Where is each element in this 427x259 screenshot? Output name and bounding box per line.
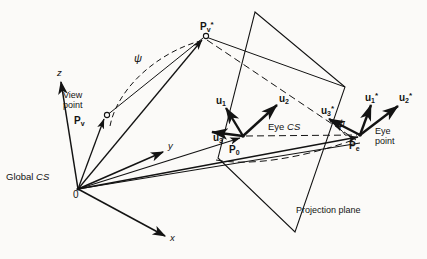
global-cs-label: Global CS xyxy=(6,172,49,182)
edge-view-point-to-pv-star xyxy=(106,38,203,116)
vector-u1 xyxy=(226,108,243,136)
edge-pv-star-to-plane-right xyxy=(206,37,345,87)
pv-subscript: v xyxy=(81,120,85,127)
vector-label-u3: u3 xyxy=(213,133,223,144)
vector-label-u1: u1 xyxy=(216,96,226,107)
eye-point-label-line2: point xyxy=(375,136,395,146)
u2-star-superscript: * xyxy=(409,91,412,100)
eye-cs-word: Eye xyxy=(268,121,287,132)
eye-cs-label: Eye CS xyxy=(268,122,300,132)
u2-subscript: 2 xyxy=(285,98,289,105)
vector-label-u2: u2 xyxy=(279,94,289,105)
x-axis-label: x xyxy=(170,233,175,243)
vector-label-u3-star: u3* xyxy=(321,105,334,117)
psi-angle-label-left: ψ xyxy=(134,53,142,65)
u3-subscript: 3 xyxy=(219,137,223,144)
u3-star-superscript: * xyxy=(331,104,334,113)
eye-point-label: Eye point xyxy=(375,126,395,146)
point-marker-p0 xyxy=(241,134,245,138)
eye-point-label-line1: Eye xyxy=(375,126,395,136)
diagram-vector-graphics xyxy=(0,0,427,259)
z-axis-label: z xyxy=(57,68,62,78)
ray-origin-to-view-point xyxy=(78,119,104,189)
point-marker-pe xyxy=(358,133,362,137)
y-axis-label: y xyxy=(168,141,173,151)
point-label-pv: Pv xyxy=(74,116,85,127)
view-point-label-line1: View xyxy=(63,90,83,100)
u1-star-superscript: * xyxy=(375,91,378,100)
global-cs-word: Global xyxy=(6,171,36,182)
view-point-label: View point xyxy=(63,90,83,110)
pv-letter: P xyxy=(74,115,81,126)
pe-subscript: e xyxy=(356,145,360,152)
point-marker-pv-star xyxy=(203,33,208,38)
figure-canvas: z y x 0 Global CS View point Pv Pv* ψ u1… xyxy=(0,0,427,259)
psi-angle-label-right: ψ xyxy=(337,118,345,130)
origin-label: 0 xyxy=(73,190,79,201)
point-label-pe: Pe xyxy=(349,141,360,152)
vector-label-u1-star: u1* xyxy=(365,92,378,104)
p0-letter: P xyxy=(229,144,236,155)
angle-arc-psi-left xyxy=(110,41,200,126)
point-label-p0: P0 xyxy=(229,145,240,156)
point-marker-view-point xyxy=(104,112,109,117)
view-point-label-line2: point xyxy=(63,100,83,110)
projection-plane-label: Projection plane xyxy=(296,206,361,215)
u1-subscript: 1 xyxy=(222,100,226,107)
pv-star-superscript: * xyxy=(211,20,214,29)
dashed-line-p0-to-pe xyxy=(246,135,357,136)
p0-subscript: 0 xyxy=(236,149,240,156)
global-cs-abbrev: CS xyxy=(36,171,49,182)
vector-label-u2-star: u2* xyxy=(399,92,412,104)
pe-letter: P xyxy=(349,140,356,151)
x-axis xyxy=(78,189,165,236)
eye-cs-abbrev: CS xyxy=(287,121,300,132)
pv-star-letter: P xyxy=(200,21,207,32)
point-label-pv-star: Pv* xyxy=(200,21,214,33)
y-axis xyxy=(78,152,163,189)
